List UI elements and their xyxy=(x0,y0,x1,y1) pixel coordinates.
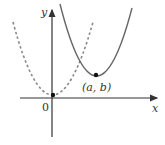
origin-label: 0 xyxy=(42,101,49,114)
vertex-point xyxy=(94,73,98,77)
base-parabola xyxy=(13,22,93,95)
origin-point xyxy=(51,93,55,97)
y-axis-label: y xyxy=(40,6,48,19)
graph-diagram: y x 0 (a, b) xyxy=(0,0,165,145)
shifted-parabola xyxy=(60,4,132,76)
vertex-label: (a, b) xyxy=(82,81,111,94)
x-axis-label: x xyxy=(152,102,159,115)
